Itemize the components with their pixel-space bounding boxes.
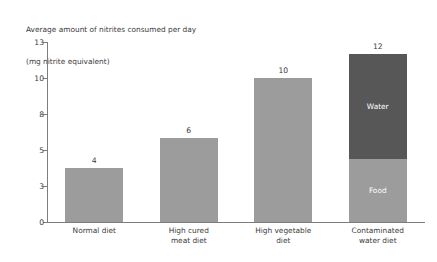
y-axis-tick-label: 3: [39, 182, 44, 191]
bar-value-label: 6: [160, 126, 218, 135]
bar-group[interactable]: 4Normal diet: [65, 42, 123, 222]
y-axis-tick-label: 13: [34, 38, 44, 47]
x-axis-category-label: Normal diet: [53, 226, 135, 236]
y-axis-tick-label: 10: [34, 74, 44, 83]
bar-group[interactable]: 10High vegetablediet: [254, 42, 312, 222]
x-axis-category-label-line: High cured: [148, 226, 230, 236]
bar-value-label: 10: [254, 66, 312, 75]
x-axis-category-label-line: Contaminated: [337, 226, 419, 236]
x-axis-category-label: High vegetablediet: [242, 226, 324, 245]
x-axis-category-label-line: water diet: [337, 236, 419, 246]
bar-series: 4Normal diet6High curedmeat diet10High v…: [47, 42, 425, 222]
x-axis-line: [47, 222, 425, 223]
bar-group[interactable]: WaterFood12Contaminatedwater diet: [349, 42, 407, 222]
bar-segment-label-food: Food: [349, 186, 407, 195]
y-axis-tick-label: 5: [39, 146, 44, 155]
bar[interactable]: [254, 78, 312, 222]
bar[interactable]: [65, 168, 123, 222]
bar-value-label: 12: [349, 42, 407, 51]
bar-group[interactable]: 6High curedmeat diet: [160, 42, 218, 222]
bar[interactable]: WaterFood: [349, 54, 407, 222]
x-axis-category-label-line: diet: [242, 236, 324, 246]
chart-canvas: Average amount of nitrites consumed per …: [0, 0, 437, 262]
x-axis-category-label: High curedmeat diet: [148, 226, 230, 245]
x-axis-category-label-line: Normal diet: [53, 226, 135, 236]
x-axis-category-label-line: High vegetable: [242, 226, 324, 236]
x-axis-category-label: Contaminatedwater diet: [337, 226, 419, 245]
bar[interactable]: [160, 138, 218, 222]
page-title: Average amount of nitrites consumed per …: [26, 25, 196, 36]
x-axis-category-label-line: meat diet: [148, 236, 230, 246]
bar-value-label: 4: [65, 156, 123, 165]
y-axis-tick-label: 8: [39, 110, 44, 119]
y-axis-tick-label: 0: [39, 218, 44, 227]
bar-segment-label-water: Water: [349, 102, 407, 111]
plot-area: 03581013 4Normal diet6High curedmeat die…: [47, 42, 425, 222]
